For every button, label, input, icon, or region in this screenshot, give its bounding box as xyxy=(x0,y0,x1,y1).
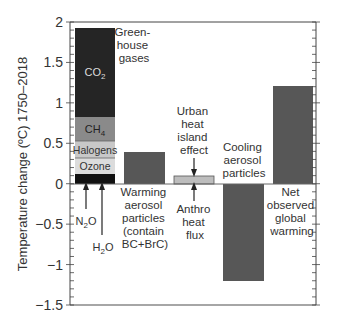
bar-warming-aerosol xyxy=(124,152,165,184)
cooling-aerosol-label: Cooling aerosol particles xyxy=(223,141,266,179)
ozone-label: Ozone xyxy=(80,160,111,172)
y-tick-labels: 2 1.5 1 0.5 0 −0.5 −1 −1.5 xyxy=(35,14,63,313)
h2o-arrow xyxy=(99,182,105,235)
y-tick-label: −0.5 xyxy=(35,216,63,232)
chart-canvas: Temperature change (ºC) 1750–2018 2 1.5 … xyxy=(0,0,339,326)
anthro-heat-arrow xyxy=(191,182,197,201)
y-tick-label: 2 xyxy=(55,14,63,30)
anthro-heat-flux-label: Anthro heat flux xyxy=(176,203,213,241)
bar-net-warming xyxy=(273,86,313,184)
n2o-arrow xyxy=(83,182,89,209)
urban-heat-arrow xyxy=(191,158,197,177)
y-tick-label: 0 xyxy=(55,176,63,192)
net-warming-label: Net observed global warming xyxy=(267,186,318,237)
warming-aerosol-label: Warming aerosol particles (contain BC+Br… xyxy=(121,186,170,250)
y-tick-label: 1 xyxy=(55,95,63,111)
y-tick-label: 1.5 xyxy=(44,54,64,70)
h2o-label: H2O xyxy=(93,241,114,256)
y-axis-label: Temperature change (ºC) 1750–2018 xyxy=(15,57,30,271)
halogens-label: Halogens xyxy=(73,144,117,156)
bar-cooling-aerosol xyxy=(223,184,264,281)
y-tick-label: −1 xyxy=(47,257,63,273)
y-tick-label: −1.5 xyxy=(35,297,63,313)
greenhouse-gases-label: Green- house gases xyxy=(115,26,154,64)
urban-heat-island-label: Urban heat island effect xyxy=(177,105,212,156)
n2o-label: N2O xyxy=(76,215,97,230)
y-tick-label: 0.5 xyxy=(44,135,64,151)
bar-segment-n2o-h2o xyxy=(75,174,115,184)
